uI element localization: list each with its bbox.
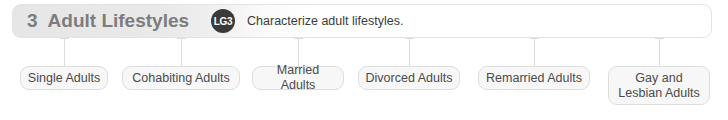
connector-line bbox=[298, 38, 299, 66]
learning-goal-badge: LG3 bbox=[211, 9, 235, 33]
topic-node-label: Remarried Adults bbox=[486, 71, 582, 86]
topic-node-label: Divorced Adults bbox=[366, 71, 453, 86]
objective-description: Characterize adult lifestyles. bbox=[247, 14, 403, 28]
chapter-header-bar: 3 Adult Lifestyles LG3 Characterize adul… bbox=[12, 4, 712, 38]
topic-node[interactable]: Remarried Adults bbox=[478, 66, 590, 90]
topic-node[interactable]: Cohabiting Adults bbox=[122, 66, 240, 90]
connector-line bbox=[181, 38, 182, 66]
learning-objective-diagram: 3 Adult Lifestyles LG3 Characterize adul… bbox=[0, 0, 728, 120]
topic-node-label: Single Adults bbox=[28, 71, 100, 86]
chapter-number: 3 bbox=[27, 10, 38, 32]
topic-node-label: Gay and Lesbian Adults bbox=[615, 71, 703, 101]
topic-node[interactable]: Single Adults bbox=[20, 66, 108, 90]
connector-line bbox=[409, 38, 410, 66]
topic-node-label: Cohabiting Adults bbox=[132, 71, 229, 86]
topic-node[interactable]: Gay and Lesbian Adults bbox=[608, 66, 710, 105]
chapter-title: Adult Lifestyles bbox=[48, 10, 189, 32]
topic-node[interactable]: Divorced Adults bbox=[358, 66, 460, 90]
connector-line bbox=[534, 38, 535, 66]
topic-node-label: Married Adults bbox=[259, 63, 337, 93]
connector-line bbox=[64, 38, 65, 66]
connector-line bbox=[659, 38, 660, 66]
topic-node[interactable]: Married Adults bbox=[252, 66, 344, 90]
